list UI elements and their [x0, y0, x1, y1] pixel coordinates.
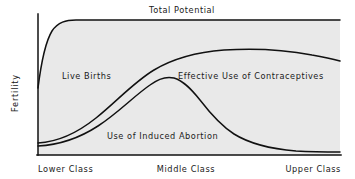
x-tick-label-middle-class: Middle Class: [157, 164, 215, 174]
label-total-potential: Total Potential: [148, 5, 215, 15]
chart-canvas: Fertility Total Potential Live Births Ef…: [0, 0, 355, 179]
fertility-by-social-class-chart: Fertility Total Potential Live Births Ef…: [0, 0, 355, 179]
label-effective-use-of-contraceptives: Effective Use of Contraceptives: [178, 71, 324, 81]
x-tick-label-upper-class: Upper Class: [285, 164, 341, 174]
label-use-of-induced-abortion: Use of Induced Abortion: [107, 131, 218, 141]
x-tick-label-lower-class: Lower Class: [38, 164, 93, 174]
y-axis-title: Fertility: [10, 74, 20, 112]
label-live-births: Live Births: [62, 71, 111, 81]
